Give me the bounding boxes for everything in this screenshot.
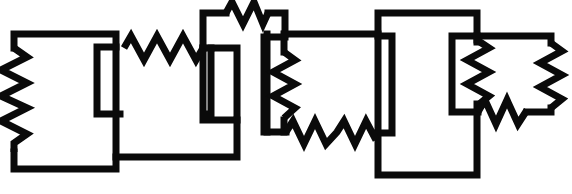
block-3-inner-u xyxy=(203,48,237,120)
block-1-outline xyxy=(14,34,116,169)
circuit-diagram-canvas xyxy=(0,0,572,194)
resistor-left-vertical-symbol xyxy=(1,48,27,152)
resistor-far-right-bottom-diagonal-symbol xyxy=(478,100,527,124)
resistor-upper-horizontal-symbol xyxy=(124,36,203,60)
resistor-lower-horizontal-symbol xyxy=(286,121,376,144)
resistor-center-vertical-symbol xyxy=(273,52,295,118)
resistor-far-right-right-vertical-symbol xyxy=(540,43,562,108)
resistor-top-horizontal-symbol xyxy=(226,2,268,24)
block-6-outline xyxy=(452,36,551,112)
block-2-bottom-wire xyxy=(116,120,237,157)
circuit-schematic-svg xyxy=(0,0,572,194)
